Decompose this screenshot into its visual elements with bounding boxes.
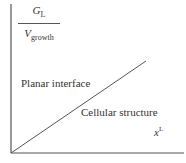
region-label-planar: Planar interface: [21, 77, 90, 89]
x-axis-label: xL: [154, 125, 163, 138]
y-numerator: G: [33, 4, 41, 16]
x-sup: L: [159, 125, 163, 133]
y-numerator-sub: L: [41, 10, 46, 19]
y-denominator-sub: growth: [31, 33, 54, 42]
y-axis-label: GL Vgrowth: [18, 4, 60, 44]
fraction-bar: [18, 23, 60, 24]
region-label-cellular: Cellular structure: [81, 106, 158, 118]
